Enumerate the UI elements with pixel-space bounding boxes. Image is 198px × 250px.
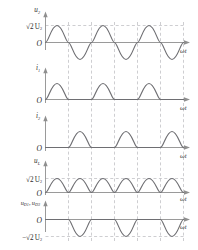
panel-u2: u2 √2U2 O ωt: [26, 6, 190, 60]
panel-i1: i1 O ωt: [36, 64, 190, 111]
y-axis-arrow-uD: [43, 201, 47, 207]
x-axis-arrow-u2: [184, 40, 190, 45]
label-i1: i1: [36, 64, 40, 73]
y-axis-arrow-u2: [43, 12, 47, 18]
x-axis-arrow-uD: [184, 217, 190, 222]
curve-i2: [46, 132, 184, 148]
y-axis-arrow-uL: [43, 161, 47, 167]
label-uL: uL: [34, 157, 41, 166]
waveform-svg: u2 √2U2 O ωt i1 O ωt i2 O ωt uL √2U2 O: [0, 0, 198, 250]
label-i2: i2: [36, 112, 40, 121]
origin-label-u2: O: [37, 39, 43, 48]
x-axis-arrow-i1: [184, 97, 190, 102]
x-axis-label-i1: ωt: [180, 104, 187, 111]
x-axis-label-u2: ωt: [180, 47, 187, 54]
level-label-uL: √2U2: [26, 176, 42, 185]
y-axis-arrow-i2: [43, 116, 47, 122]
waveform-figure: u2 √2U2 O ωt i1 O ωt i2 O ωt uL √2U2 O: [0, 0, 198, 250]
origin-label-uD: O: [37, 216, 43, 225]
label-u2: u2: [34, 6, 40, 15]
origin-label-i2: O: [37, 144, 43, 153]
origin-label-i1: O: [37, 96, 43, 105]
label-uD: uD1,uD3: [21, 199, 40, 208]
origin-label-uL: O: [37, 189, 43, 198]
x-axis-label-uD: ωt: [180, 223, 187, 230]
panel-i2: i2 O ωt: [36, 112, 190, 159]
level-label-u2: √2U2: [26, 23, 42, 32]
y-axis-arrow-i1: [43, 68, 47, 74]
panel-uL: uL √2U2 O ωt: [26, 157, 190, 202]
panel-uD: uD1,uD3 O −√2U2 ωt: [21, 199, 190, 243]
x-axis-label-i2: ωt: [180, 152, 187, 159]
curve-i1: [46, 84, 184, 100]
level-label-uD: −√2U2: [22, 234, 42, 243]
x-axis-label-uL: ωt: [180, 195, 187, 202]
gridlines: [69, 22, 184, 243]
x-axis-arrow-i2: [184, 145, 190, 150]
